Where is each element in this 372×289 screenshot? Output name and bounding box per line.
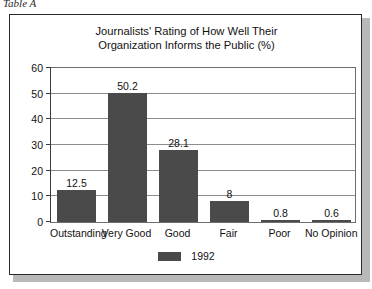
y-tick-label-30: 30 — [31, 140, 43, 151]
bar-value-label: 12.5 — [51, 177, 102, 189]
y-tick-label-20: 20 — [31, 165, 43, 176]
table-caption: Table A — [3, 0, 36, 10]
y-tick-label-60: 60 — [31, 63, 43, 74]
bar[interactable] — [312, 220, 351, 222]
y-tick-label-10: 10 — [31, 191, 43, 202]
bar-slot: 8 — [204, 68, 255, 222]
legend-swatch-1992 — [158, 252, 181, 261]
x-axis-label-fair: Fair — [203, 227, 254, 239]
chart-title-line-1: Journalists' Rating of How Well Their — [10, 24, 363, 38]
chart-legend: 1992 — [10, 251, 363, 262]
chart-title-line-2: Organization Informs the Public (%) — [10, 38, 363, 52]
x-axis-label-poor: Poor — [254, 227, 305, 239]
x-axis-label-no-opinion: No Opinion — [305, 227, 356, 239]
bar-slot: 50.2 — [102, 68, 153, 222]
bar[interactable] — [210, 201, 249, 222]
legend-label-1992: 1992 — [191, 251, 214, 262]
bar[interactable] — [261, 220, 300, 222]
bar-value-label: 28.1 — [153, 137, 204, 149]
bar-slot: 28.1 — [153, 68, 204, 222]
x-axis-label-good: Good — [152, 227, 203, 239]
plot-area: 0102030405060 12.550.228.180.80.6 — [50, 67, 356, 223]
y-tick-label-50: 50 — [31, 88, 43, 99]
bar-slot: 0.8 — [255, 68, 306, 222]
bar-value-label: 0.8 — [255, 207, 306, 219]
chart-figure-frame: Journalists' Rating of How Well Their Or… — [9, 14, 362, 275]
bar[interactable] — [159, 150, 198, 222]
bar-value-label: 8 — [204, 188, 255, 200]
y-tick-label-40: 40 — [31, 114, 43, 125]
bar-value-label: 50.2 — [102, 80, 153, 92]
bars-layer: 12.550.228.180.80.6 — [51, 68, 355, 222]
bar-slot: 12.5 — [51, 68, 102, 222]
x-axis-label-outstanding: Outstanding — [50, 227, 101, 239]
bar-slot: 0.6 — [306, 68, 357, 222]
bar[interactable] — [57, 190, 96, 222]
chart-title: Journalists' Rating of How Well Their Or… — [10, 24, 363, 52]
x-axis-label-very-good: Very Good — [101, 227, 152, 239]
bar[interactable] — [108, 93, 147, 222]
y-tick-label-0: 0 — [37, 217, 43, 228]
bar-value-label: 0.6 — [306, 207, 357, 219]
